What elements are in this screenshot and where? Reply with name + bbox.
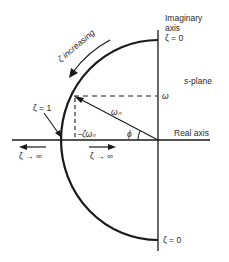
phi-angle-arc xyxy=(138,131,140,140)
zeta-inf-right-label: ζ → ∞ xyxy=(90,151,113,161)
s-plane-label: s-plane xyxy=(184,76,212,86)
zeta-zero-bottom-label: ζ = 0 xyxy=(163,235,181,245)
s-plane-diagram: Imaginary axis ζ = 0 s-plane ω Real axis… xyxy=(0,0,229,262)
omega-label: ω xyxy=(162,91,169,101)
zeta-one-label: ζ = 1 xyxy=(33,103,51,113)
minus-zeta-omega-n-label: −ζωₙ xyxy=(77,129,95,139)
zeta-inf-right-arrowhead xyxy=(108,144,116,150)
zeta-inf-left-label: ζ → ∞ xyxy=(19,151,42,161)
real-axis-label: Real axis xyxy=(174,128,209,138)
phi-label: ϕ xyxy=(127,129,132,139)
imaginary-axis-label-line2: axis xyxy=(165,23,180,33)
zeta-inf-left-arrowhead xyxy=(19,144,27,150)
zeta-zero-top-label: ζ = 0 xyxy=(165,33,183,43)
omega-n-label: ωₙ xyxy=(111,107,121,117)
imaginary-axis-label-line1: Imaginary xyxy=(165,13,202,23)
s-plane-label-rest: -plane xyxy=(188,76,212,86)
zeta-increasing-arrowhead xyxy=(69,68,78,78)
zeta-one-pointer xyxy=(44,113,59,134)
